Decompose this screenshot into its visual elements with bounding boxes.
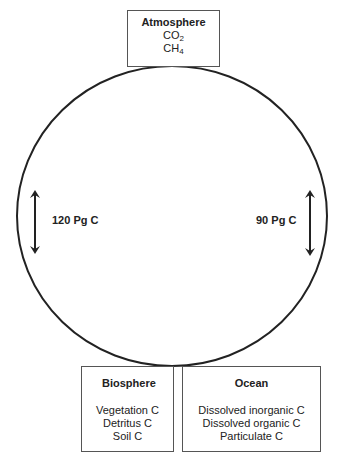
ch4-base: CH bbox=[163, 42, 179, 54]
left-flux-label: 120 Pg C bbox=[52, 214, 98, 226]
atmosphere-box: Atmosphere CO2 CH4 bbox=[127, 10, 220, 67]
ch4-subscript: 4 bbox=[179, 47, 183, 56]
atmosphere-title: Atmosphere bbox=[128, 16, 219, 29]
atmosphere-item-ch4: CH4 bbox=[128, 42, 219, 55]
biosphere-title: Biosphere bbox=[82, 377, 173, 390]
ocean-item: Dissolved inorganic C bbox=[183, 404, 320, 417]
biosphere-item: Vegetation C bbox=[82, 404, 173, 417]
biosphere-box: Biosphere Vegetation C Detritus C Soil C bbox=[81, 366, 174, 452]
biosphere-item: Soil C bbox=[82, 430, 173, 443]
ocean-box: Ocean Dissolved inorganic C Dissolved or… bbox=[182, 366, 321, 452]
ocean-item: Dissolved organic C bbox=[183, 417, 320, 430]
atmosphere-item-co2: CO2 bbox=[128, 29, 219, 42]
ocean-item: Particulate C bbox=[183, 430, 320, 443]
ocean-title: Ocean bbox=[183, 377, 320, 390]
co2-base: CO bbox=[163, 29, 180, 41]
right-flux-label: 90 Pg C bbox=[256, 214, 296, 226]
biosphere-item: Detritus C bbox=[82, 417, 173, 430]
